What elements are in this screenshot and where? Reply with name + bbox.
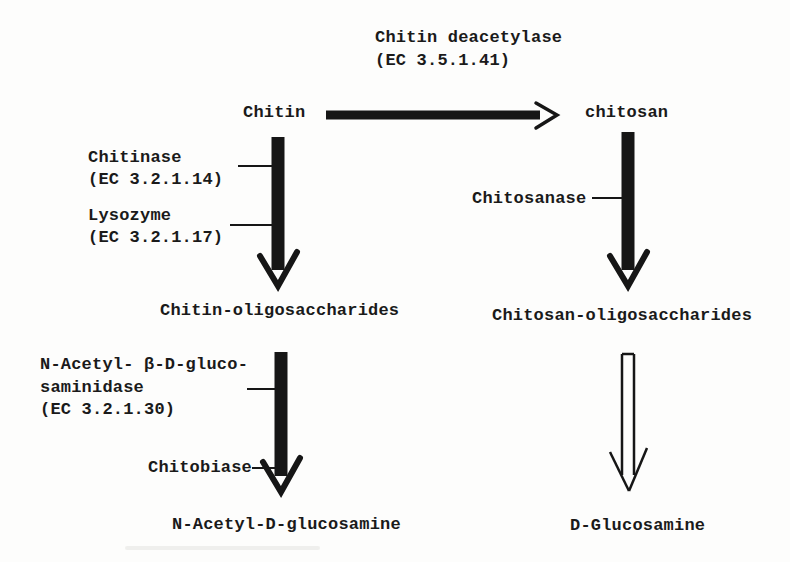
- node-chitosan-oligosaccharides: Chitosan-oligosaccharides: [492, 305, 752, 327]
- chitosan-to-oligosaccharides-arrow: [610, 132, 647, 286]
- node-chitin: Chitin: [243, 102, 305, 124]
- chitin-to-chitosan-arrow: [326, 103, 557, 128]
- chitin-degradation-pathway-figure: Chitin deacetylase (EC 3.5.1.41) Chitin …: [0, 0, 790, 562]
- enzyme-glucosaminidase-line1: N-Acetyl- β-D-gluco-: [40, 354, 248, 376]
- enzyme-lysozyme-ec-number: (EC 3.2.1.17): [88, 227, 223, 249]
- oligosaccharides-to-nag-arrow: [263, 352, 300, 492]
- enzyme-glucosaminidase-ec-number: (EC 3.2.1.30): [40, 399, 175, 421]
- enzyme-lysozyme-name: Lysozyme: [88, 205, 171, 227]
- enzyme-glucosaminidase-line2: saminidase: [40, 377, 144, 399]
- oligosaccharides-to-glucosamine-hollow-arrow: [610, 354, 647, 491]
- enzyme-chitinase-name: Chitinase: [88, 147, 182, 169]
- node-d-glucosamine: D-Glucosamine: [570, 515, 705, 537]
- pathway-arrows-layer: [0, 0, 790, 562]
- chitin-to-oligosaccharides-arrow: [260, 137, 297, 286]
- top-enzyme-ec-number: (EC 3.5.1.41): [375, 50, 510, 72]
- node-n-acetyl-d-glucosamine: N-Acetyl-D-glucosamine: [172, 514, 401, 536]
- node-chitosan: chitosan: [585, 102, 668, 124]
- enzyme-chitosanase-name: Chitosanase: [472, 188, 586, 210]
- enzyme-chitobiase-name: Chitobiase: [148, 457, 252, 479]
- top-enzyme-name: Chitin deacetylase: [375, 27, 562, 49]
- faint-caption-remnant: [125, 546, 320, 550]
- enzyme-chitinase-ec-number: (EC 3.2.1.14): [88, 169, 223, 191]
- node-chitin-oligosaccharides: Chitin-oligosaccharides: [160, 300, 399, 322]
